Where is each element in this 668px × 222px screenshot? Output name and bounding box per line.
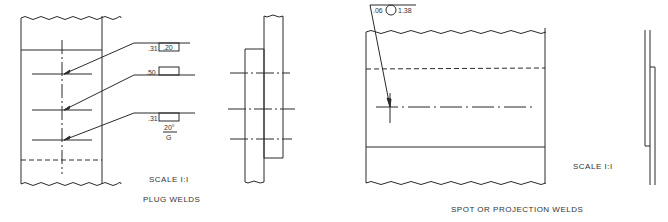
plug-weld-front-view <box>21 16 121 186</box>
spot-weld-side-view <box>645 30 655 185</box>
plug-weld-1-size: .31 <box>148 45 158 52</box>
plug-weld-1-box-value: .20 <box>163 44 173 51</box>
plug-weld-title: PLUG WELDS <box>143 195 200 204</box>
weld-drawing-canvas <box>0 0 668 222</box>
spot-weld-front-view <box>366 5 546 185</box>
spot-weld-pitch: 1.38 <box>398 7 412 14</box>
spot-weld-scale: SCALE I:I <box>573 162 613 171</box>
plug-weld-2-size: .50 <box>146 69 156 76</box>
plug-weld-3-angle: 20° <box>164 124 175 131</box>
spot-weld-size: .06 <box>373 7 383 14</box>
plug-weld-scale: SCALE I:I <box>149 175 189 184</box>
spot-weld-title: SPOT OR PROJECTION WELDS <box>451 205 583 214</box>
plug-weld-side-view <box>228 15 295 183</box>
plug-weld-3-size: .31 <box>148 115 158 122</box>
plug-weld-3-finish: G <box>166 134 171 141</box>
plug-weld-leaders <box>64 43 195 140</box>
